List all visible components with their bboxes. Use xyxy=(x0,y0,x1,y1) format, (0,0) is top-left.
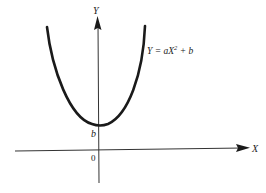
x-axis-arrow-icon xyxy=(236,144,250,152)
y-axis-label: Y xyxy=(93,5,100,16)
parabola-curve xyxy=(47,26,145,126)
equation-label: Y = aX2 + b xyxy=(147,44,193,56)
x-axis-label: X xyxy=(251,143,259,154)
x-axis xyxy=(15,144,250,152)
parabola-figure: Y X 0 b Y = aX2 + b xyxy=(0,0,266,193)
intercept-b-label: b xyxy=(91,128,96,139)
y-axis-arrow-icon xyxy=(94,16,102,30)
origin-label: 0 xyxy=(91,153,96,163)
